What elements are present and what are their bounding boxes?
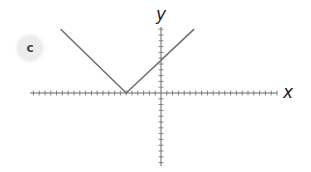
x-axis-label: x bbox=[282, 82, 294, 102]
graph-line bbox=[61, 29, 194, 93]
axes bbox=[30, 27, 277, 166]
y-axis-label: y bbox=[155, 4, 167, 24]
coordinate-plane: x y bbox=[0, 0, 311, 172]
absolute-value-graph bbox=[61, 29, 194, 93]
